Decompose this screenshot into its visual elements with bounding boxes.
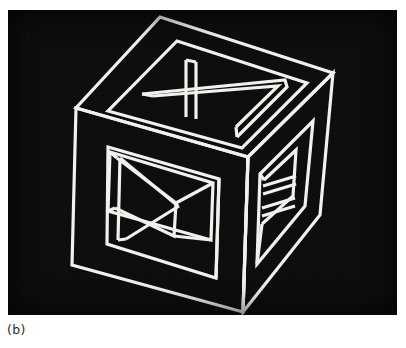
top-aperture-right-cap (236, 127, 237, 137)
front-vertical-inner-edge (216, 179, 219, 278)
photo-plate (8, 10, 397, 315)
impossible-cube-drawing (8, 10, 397, 315)
figure-root: (b) (0, 0, 406, 348)
front-face-foot (118, 239, 126, 240)
left-window-outer (108, 152, 213, 240)
top-aperture-left-cap (142, 94, 153, 96)
left-face-outer-edge (72, 108, 248, 312)
cube-line-group (72, 17, 333, 312)
front-face-left-upright (118, 158, 120, 240)
left-window-lower-join (174, 236, 211, 240)
front-vertical-edge (243, 157, 248, 312)
top-face-inner-edge (108, 41, 307, 148)
top-strut-cap (186, 60, 196, 62)
figure-caption: (b) (7, 322, 26, 338)
left-window-diagonal-right (176, 183, 213, 203)
